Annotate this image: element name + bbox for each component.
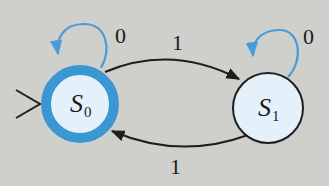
state-s0: S0 xyxy=(46,70,114,138)
self-loop-s0: 0 xyxy=(58,23,126,68)
edge-label-s1-s0: 1 xyxy=(170,154,181,179)
start-arrow-icon xyxy=(16,90,40,118)
edge-s1-to-s0: 1 xyxy=(112,131,248,179)
loop-label-s1: 0 xyxy=(303,24,314,49)
edge-label-s0-s1: 1 xyxy=(172,30,183,55)
diagram-canvas: 1 1 0 0 S0 S1 xyxy=(0,0,329,186)
loop-label-s0: 0 xyxy=(115,23,126,48)
state-s1: S1 xyxy=(233,73,303,143)
state-diagram: 1 1 0 0 S0 S1 xyxy=(0,0,329,186)
self-loop-s1: 0 xyxy=(253,24,314,77)
